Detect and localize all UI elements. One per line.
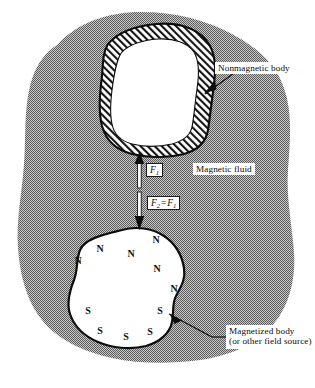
pole-marker-south-1: S bbox=[97, 325, 103, 336]
pole-marker-north-4: N bbox=[170, 283, 177, 294]
label-magnetized-body-line1: Magnetized body bbox=[229, 326, 295, 336]
label-magnetic-fluid: Magnetic fluid bbox=[193, 163, 255, 175]
nonmagnetic-body-inner-outline bbox=[110, 39, 198, 146]
pole-marker-south-2: S bbox=[123, 331, 129, 342]
force-label-f2-symbol: F bbox=[151, 198, 157, 208]
pole-marker-north-2: N bbox=[127, 248, 134, 259]
pole-marker-north-0: N bbox=[74, 255, 81, 266]
force-label-f1: F1 bbox=[146, 163, 163, 177]
label-magnetized-body-line2: (or other field source) bbox=[229, 336, 312, 346]
force-label-f1-subscript: 1 bbox=[156, 169, 159, 176]
label-magnetic-fluid-text: Magnetic fluid bbox=[196, 164, 252, 174]
force-label-f2-subscript-2: 1 bbox=[173, 202, 176, 209]
label-nonmagnetic-body: Nonmagnetic body bbox=[215, 62, 293, 74]
force-arrow-f1-shaft bbox=[138, 160, 142, 188]
pole-marker-north-1: N bbox=[96, 243, 103, 254]
label-nonmagnetic-body-text: Nonmagnetic body bbox=[218, 63, 290, 73]
force-label-f2-subscript: 2 bbox=[157, 202, 160, 209]
force-label-f1-symbol: F bbox=[150, 165, 156, 175]
pole-marker-north-5: N bbox=[152, 234, 159, 245]
pole-marker-south-4: S bbox=[157, 305, 163, 316]
pole-marker-south-3: S bbox=[147, 326, 153, 337]
pole-marker-north-3: N bbox=[153, 263, 160, 274]
force-arrow-f2-shaft bbox=[138, 192, 142, 218]
label-magnetized-body: Magnetized body (or other field source) bbox=[226, 325, 315, 349]
force-label-f2: F2=F1 bbox=[147, 196, 180, 210]
pole-marker-south-0: S bbox=[85, 305, 91, 316]
magnetic-fluid-diagram: Nonmagnetic body Magnetic fluid Magnetiz… bbox=[0, 0, 315, 388]
